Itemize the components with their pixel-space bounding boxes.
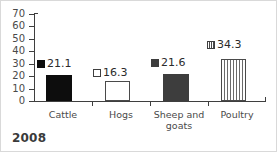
value-label-sheep-and-goats: 21.6	[151, 57, 186, 68]
y-tick-0	[29, 101, 34, 102]
value-label-poultry: 34.3	[207, 39, 242, 50]
bar-chart-figure: 70 60 50 40 30 20 10 0 21.1 16.3 21.6 34…	[0, 0, 277, 152]
y-axis-label-40: 40	[12, 46, 25, 56]
y-axis-label-10: 10	[12, 84, 25, 94]
value-text-sheep-and-goats: 21.6	[161, 57, 186, 68]
x-axis-category-sheep-and-goats: Sheep and goats	[149, 109, 209, 131]
footer-year-label: 2008	[12, 131, 46, 145]
y-axis-top-cap	[34, 13, 38, 14]
x-axis-category-cattle: Cattle	[35, 109, 91, 120]
y-axis-label-20: 20	[12, 71, 25, 81]
value-label-cattle: 21.1	[37, 58, 72, 69]
bar-poultry[interactable]	[221, 59, 246, 101]
marker-square-hogs-icon	[93, 69, 101, 77]
x-tick-1	[92, 101, 93, 106]
x-tick-3	[208, 101, 209, 106]
marker-square-sheep-and-goats-icon	[151, 59, 159, 67]
value-text-cattle: 21.1	[47, 58, 72, 69]
value-label-hogs: 16.3	[93, 67, 128, 78]
y-axis-label-50: 50	[12, 34, 25, 44]
x-axis-line	[29, 101, 266, 102]
x-tick-2	[150, 101, 151, 106]
y-axis-label-60: 60	[12, 21, 25, 31]
bar-hogs[interactable]	[105, 81, 130, 101]
bar-sheep-and-goats[interactable]	[163, 74, 189, 101]
y-axis-label-70: 70	[12, 9, 25, 19]
marker-square-poultry-icon	[207, 41, 215, 49]
value-text-poultry: 34.3	[217, 39, 242, 50]
x-axis-category-hogs: Hogs	[93, 109, 149, 120]
y-axis-label-0: 0	[19, 96, 25, 106]
value-text-hogs: 16.3	[103, 67, 128, 78]
x-axis-category-poultry: Poultry	[209, 109, 265, 120]
marker-square-cattle-icon	[37, 60, 45, 68]
bar-cattle[interactable]	[46, 75, 72, 101]
y-axis-label-30: 30	[12, 59, 25, 69]
